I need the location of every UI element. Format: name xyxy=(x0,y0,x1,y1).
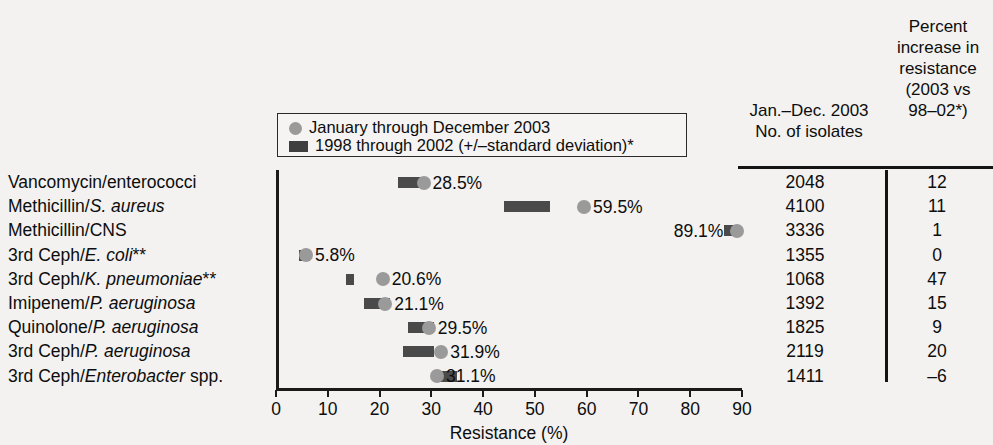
cell-percent-increase: 1 xyxy=(887,218,987,242)
x-tick-label: 80 xyxy=(670,399,710,420)
data-point-2003 xyxy=(378,297,392,311)
x-tick-label: 40 xyxy=(463,399,503,420)
table-row: 33361 xyxy=(735,218,993,242)
legend-box: January through December 2003 1998 throu… xyxy=(277,113,687,157)
data-row: 29.5% xyxy=(270,315,748,339)
table-row: 139215 xyxy=(735,291,993,315)
x-tick-label: 50 xyxy=(515,399,555,420)
x-tick-label: 20 xyxy=(360,399,400,420)
x-tick xyxy=(430,390,432,397)
cell-isolates: 1392 xyxy=(735,291,875,315)
x-tick xyxy=(379,390,381,397)
table-row: 410011 xyxy=(735,194,993,218)
plot-area: 0102030405060708090 28.5%59.5%89.1%5.8%2… xyxy=(270,113,748,413)
x-tick xyxy=(586,390,588,397)
x-tick xyxy=(689,390,691,397)
cell-percent-increase: –6 xyxy=(887,364,987,388)
category-label: Vancomycin/enterococci xyxy=(8,170,270,194)
cell-percent-increase: 15 xyxy=(887,291,987,315)
cell-isolates: 2048 xyxy=(735,170,875,194)
legend-item-2003: January through December 2003 xyxy=(289,117,550,137)
data-value-label: 31.9% xyxy=(450,343,500,361)
x-tick xyxy=(482,390,484,397)
table-row: 18259 xyxy=(735,315,993,339)
category-label: 3rd Ceph/Enterobacter spp. xyxy=(8,364,270,388)
data-point-2003 xyxy=(577,200,591,214)
cell-isolates: 1411 xyxy=(735,364,875,388)
data-row: 59.5% xyxy=(270,194,748,218)
data-point-2003 xyxy=(417,176,431,190)
range-bar-1998-2002 xyxy=(346,274,354,285)
data-value-label: 59.5% xyxy=(593,198,643,216)
category-label: Quinolone/P. aeruginosa xyxy=(8,315,270,339)
legend-item-9802: 1998 through 2002 (+/–standard deviation… xyxy=(289,135,634,155)
data-point-2003 xyxy=(299,248,313,262)
header-increase-line3: resistance xyxy=(883,58,993,79)
data-row: 21.1% xyxy=(270,291,748,315)
header-isolates-line1: Jan.–Dec. 2003 xyxy=(735,100,883,121)
data-point-2003 xyxy=(376,272,390,286)
table-row: 106847 xyxy=(735,267,993,291)
table-header-rule xyxy=(738,166,993,169)
cell-isolates: 1825 xyxy=(735,315,875,339)
x-tick-label: 90 xyxy=(722,399,762,420)
legend-bar-icon xyxy=(289,141,308,152)
x-tick xyxy=(534,390,536,397)
x-tick-label: 60 xyxy=(567,399,607,420)
resistance-figure: Vancomycin/enterococciMethicillin/S. aur… xyxy=(0,0,993,445)
range-bar-1998-2002 xyxy=(504,201,551,212)
table-row: 13550 xyxy=(735,243,993,267)
legend-dot-icon xyxy=(289,122,302,135)
data-value-label: 28.5% xyxy=(433,174,483,192)
data-row: 31.1% xyxy=(270,364,748,388)
data-value-label: 21.1% xyxy=(394,295,444,313)
table-row: 1411–6 xyxy=(735,364,993,388)
data-row: 20.6% xyxy=(270,267,748,291)
header-increase-line5: 98–02*) xyxy=(883,100,993,121)
data-value-label: 31.1% xyxy=(446,367,496,385)
data-point-2003 xyxy=(434,345,448,359)
data-row: 89.1% xyxy=(270,218,748,242)
data-value-label: 89.1% xyxy=(657,222,723,240)
category-label: Methicillin/CNS xyxy=(8,218,270,242)
cell-isolates: 2119 xyxy=(735,339,875,363)
data-table: Jan.–Dec. 2003 No. of isolates Percent i… xyxy=(735,0,993,400)
x-tick-label: 0 xyxy=(256,399,296,420)
x-tick-label: 70 xyxy=(618,399,658,420)
data-value-label: 29.5% xyxy=(438,319,488,337)
data-series-layer: 28.5%59.5%89.1%5.8%20.6%21.1%29.5%31.9%3… xyxy=(270,170,748,389)
cell-isolates: 1068 xyxy=(735,267,875,291)
legend-label-9802: 1998 through 2002 (+/–standard deviation… xyxy=(315,136,634,154)
column-header-isolates: Jan.–Dec. 2003 No. of isolates xyxy=(735,100,883,142)
category-label: 3rd Ceph/E. coli** xyxy=(8,243,270,267)
header-isolates-line2: No. of isolates xyxy=(735,121,883,142)
legend-label-2003: January through December 2003 xyxy=(309,118,550,136)
category-label: 3rd Ceph/K. pneumoniae** xyxy=(8,267,270,291)
cell-isolates: 3336 xyxy=(735,218,875,242)
header-increase-line1: Percent xyxy=(883,16,993,37)
x-tick xyxy=(327,390,329,397)
range-bar-1998-2002 xyxy=(403,346,434,357)
data-value-label: 20.6% xyxy=(392,270,442,288)
table-row: 211920 xyxy=(735,339,993,363)
data-point-2003 xyxy=(430,369,444,383)
cell-percent-increase: 11 xyxy=(887,194,987,218)
cell-percent-increase: 47 xyxy=(887,267,987,291)
data-row: 31.9% xyxy=(270,339,748,363)
x-tick-label: 30 xyxy=(411,399,451,420)
cell-percent-increase: 9 xyxy=(887,315,987,339)
data-point-2003 xyxy=(422,321,436,335)
category-label: 3rd Ceph/P. aeruginosa xyxy=(8,339,270,363)
column-header-increase: Percent increase in resistance (2003 vs … xyxy=(883,16,993,121)
data-row: 28.5% xyxy=(270,170,748,194)
x-tick xyxy=(275,390,277,397)
x-tick xyxy=(637,390,639,397)
x-axis-title: Resistance (%) xyxy=(270,423,748,444)
cell-isolates: 1355 xyxy=(735,243,875,267)
cell-isolates: 4100 xyxy=(735,194,875,218)
x-tick-label: 10 xyxy=(308,399,348,420)
header-increase-line4: (2003 vs xyxy=(883,79,993,100)
cell-percent-increase: 0 xyxy=(887,243,987,267)
cell-percent-increase: 12 xyxy=(887,170,987,194)
category-label: Imipenem/P. aeruginosa xyxy=(8,291,270,315)
